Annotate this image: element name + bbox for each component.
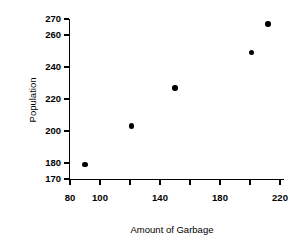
x-tick-120 bbox=[129, 180, 130, 185]
x-tick-100 bbox=[99, 180, 100, 185]
y-tick-200 bbox=[64, 130, 69, 131]
x-tick-200 bbox=[249, 180, 250, 185]
y-tick-label-220: 220 bbox=[35, 94, 61, 104]
y-tick-180 bbox=[64, 162, 69, 163]
data-point bbox=[265, 21, 271, 27]
plot-area bbox=[70, 19, 284, 179]
x-tick-220 bbox=[279, 180, 280, 185]
y-tick-220 bbox=[64, 98, 69, 99]
x-tick-label-100: 100 bbox=[80, 192, 120, 203]
y-tick-260 bbox=[64, 34, 69, 35]
scatter-chart-figure: Population 170180200220240260270 8010014… bbox=[0, 0, 290, 252]
y-tick-label-260: 260 bbox=[35, 30, 61, 40]
y-tick-label-180: 180 bbox=[35, 158, 61, 168]
y-tick-label-240: 240 bbox=[35, 62, 61, 72]
x-axis-title: Amount of Garbage bbox=[60, 224, 284, 235]
x-tick-label-220: 220 bbox=[260, 192, 290, 203]
x-tick-180 bbox=[219, 180, 220, 185]
y-axis-tick-labels: 170180200220240260270 bbox=[33, 0, 61, 252]
y-tick-label-200: 200 bbox=[35, 126, 61, 136]
x-tick-label-140: 140 bbox=[140, 192, 180, 203]
y-tick-170 bbox=[64, 178, 69, 179]
y-tick-270 bbox=[64, 18, 69, 19]
x-tick-140 bbox=[159, 180, 160, 185]
x-tick-label-180: 180 bbox=[200, 192, 240, 203]
y-tick-label-270: 270 bbox=[35, 14, 61, 24]
data-point bbox=[172, 85, 178, 91]
y-tick-label-170: 170 bbox=[35, 174, 61, 184]
y-tick-240 bbox=[64, 66, 69, 67]
x-tick-80 bbox=[69, 180, 70, 185]
x-tick-160 bbox=[189, 180, 190, 185]
